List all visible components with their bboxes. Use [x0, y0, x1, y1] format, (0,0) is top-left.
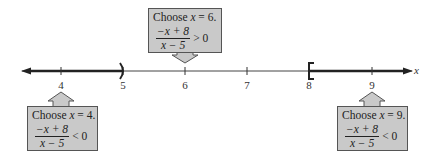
relation: < 0	[382, 131, 397, 143]
fraction: −x + 8 x − 5	[156, 26, 190, 52]
fraction: −x + 8 x − 5	[345, 124, 379, 150]
axis-variable-label: x	[414, 64, 419, 76]
title-suffix: = 9.	[384, 109, 405, 121]
fraction: −x + 8 x − 5	[35, 124, 69, 150]
title-suffix: = 4.	[74, 109, 95, 121]
numerator: −x + 8	[345, 124, 379, 138]
tick-label: 4	[58, 79, 64, 91]
numerator: −x + 8	[156, 26, 190, 40]
denominator: x − 5	[40, 137, 64, 150]
left-arrow-icon	[21, 68, 31, 75]
inequality-expression: −x + 8 x − 5 < 0	[35, 124, 93, 150]
tick-label: 7	[244, 79, 250, 91]
test-point-title: Choose x = 4.	[32, 110, 93, 122]
down-arrow-icon	[172, 52, 198, 63]
denominator: x − 5	[350, 137, 374, 150]
inequality-expression: −x + 8 x − 5 > 0	[156, 26, 217, 52]
title-prefix: Choose	[153, 11, 190, 23]
tick-label: 8	[306, 79, 312, 91]
test-point-title: Choose x = 9.	[342, 110, 403, 122]
test-point-box-4: Choose x = 4. −x + 8 x − 5 < 0	[27, 106, 98, 151]
tick-label: 6	[182, 79, 188, 91]
relation: > 0	[193, 33, 208, 45]
title-suffix: = 6.	[195, 11, 216, 23]
up-arrow-icon	[359, 92, 385, 107]
test-point-title: Choose x = 6.	[153, 12, 217, 24]
up-arrow-icon	[48, 92, 74, 107]
test-point-box-6: Choose x = 6. −x + 8 x − 5 > 0	[148, 8, 222, 53]
relation: < 0	[72, 131, 87, 143]
numerator: −x + 8	[35, 124, 69, 138]
title-prefix: Choose	[342, 109, 379, 121]
inequality-expression: −x + 8 x − 5 < 0	[345, 124, 403, 150]
tick-label: 9	[369, 79, 375, 91]
test-point-box-9: Choose x = 9. −x + 8 x − 5 < 0	[337, 106, 408, 151]
right-arrow-icon	[403, 68, 413, 75]
denominator: x − 5	[161, 39, 185, 52]
tick-label: 5	[120, 79, 126, 91]
title-prefix: Choose	[32, 109, 69, 121]
